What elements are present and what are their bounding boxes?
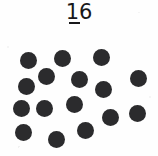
- numeral-label-area: 16: [0, 0, 158, 34]
- dot: [102, 109, 119, 126]
- dot: [20, 52, 37, 69]
- dot: [36, 100, 53, 117]
- dot: [13, 100, 30, 117]
- dot-field: [0, 34, 158, 156]
- dot: [15, 124, 32, 141]
- page-title: 16: [0, 1, 158, 24]
- numeral-underline: [69, 22, 80, 24]
- dot: [54, 50, 71, 67]
- numerosity-stimulus-card: 16: [0, 0, 158, 156]
- dot: [93, 49, 110, 66]
- dot: [95, 81, 112, 98]
- dot: [130, 70, 147, 87]
- dot: [38, 68, 55, 85]
- dot: [129, 105, 146, 122]
- dot: [77, 122, 94, 139]
- dot: [18, 78, 35, 95]
- dot: [66, 96, 83, 113]
- dot: [48, 131, 65, 148]
- dot: [71, 71, 88, 88]
